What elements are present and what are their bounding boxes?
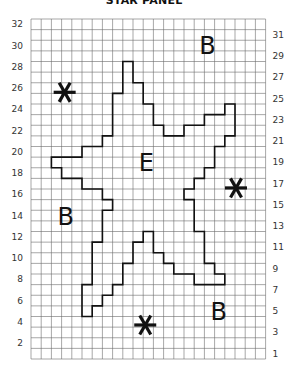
row-label-left: 18 [12, 168, 24, 178]
row-label-left: 28 [12, 62, 24, 72]
row-label-left: 32 [12, 19, 23, 29]
row-label-right: 15 [273, 200, 284, 210]
row-label-right: 9 [273, 264, 279, 274]
color-letter-b: B [57, 203, 73, 231]
row-label-left: 14 [12, 211, 24, 221]
row-label-left: 12 [12, 232, 23, 242]
row-label-right: 7 [273, 285, 279, 295]
asterisk-icon [225, 178, 247, 197]
right-row-labels: 312927252321191715131197531 [273, 30, 285, 359]
row-label-left: 16 [12, 189, 24, 199]
row-label-left: 6 [17, 296, 23, 306]
row-label-right: 21 [273, 136, 284, 146]
row-label-right: 17 [273, 179, 284, 189]
row-label-right: 23 [273, 115, 284, 125]
row-label-left: 22 [12, 126, 23, 136]
left-row-labels: 3230282624222018161412108642 [12, 19, 24, 348]
row-label-left: 10 [12, 253, 24, 263]
row-label-left: 20 [12, 147, 24, 157]
row-label-right: 27 [273, 72, 284, 82]
color-letter-b: B [210, 298, 226, 326]
row-label-right: 5 [273, 306, 279, 316]
row-label-left: 30 [12, 41, 24, 51]
star-panel-grid: 3230282624222018161412108642 31292725232… [0, 0, 288, 375]
row-label-left: 2 [17, 338, 23, 348]
row-label-right: 13 [273, 221, 284, 231]
color-letter-e: E [139, 149, 154, 177]
row-label-left: 8 [17, 274, 23, 284]
asterisk-icon [134, 315, 156, 334]
row-label-left: 24 [12, 104, 24, 114]
row-label-left: 26 [12, 83, 24, 93]
row-label-right: 29 [273, 51, 285, 61]
row-label-right: 11 [273, 242, 284, 252]
row-label-right: 3 [273, 327, 279, 337]
color-letter-b: B [199, 32, 215, 60]
row-label-right: 1 [273, 349, 279, 359]
asterisk-icon [54, 83, 76, 102]
row-label-right: 25 [273, 94, 284, 104]
row-label-left: 4 [17, 317, 23, 327]
row-label-right: 19 [273, 157, 285, 167]
row-label-right: 31 [273, 30, 284, 40]
